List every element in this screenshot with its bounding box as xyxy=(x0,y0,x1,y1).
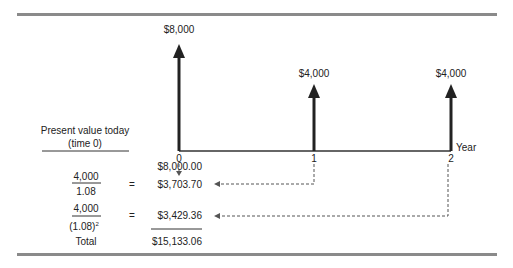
total-label: Total xyxy=(75,236,96,248)
row-1-denominator: 1.08 xyxy=(76,186,95,198)
row-2-equals: = xyxy=(129,210,135,222)
axis-label: Year xyxy=(456,142,476,154)
row-2-numerator: 4,000 xyxy=(73,203,98,215)
pv-heading-line1: Present value today xyxy=(41,125,129,137)
cash-flow-2-amount: $4,000 xyxy=(436,68,467,80)
cash-flow-1-amount: $4,000 xyxy=(299,68,330,80)
pv-row-0-value: $8,000.00 xyxy=(158,161,203,173)
pv-heading-line2: (time 0) xyxy=(68,138,102,150)
row-1-numerator: 4,000 xyxy=(73,171,98,183)
total-value: $15,133.06 xyxy=(152,236,202,248)
year-1-tick: 1 xyxy=(311,153,317,165)
cash-flow-0-amount: $8,000 xyxy=(164,24,195,36)
pv-row-2-value: $3,429.36 xyxy=(158,210,203,222)
year-2-tick: 2 xyxy=(448,153,454,165)
row-2-denominator: (1.08)2 xyxy=(69,218,98,233)
pv-row-1-value: $3,703.70 xyxy=(158,179,203,191)
row-1-equals: = xyxy=(129,179,135,191)
